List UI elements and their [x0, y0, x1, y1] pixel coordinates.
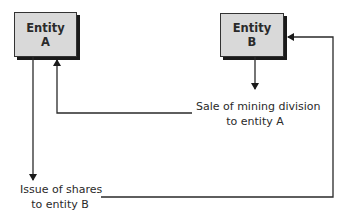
arrow-sale-to-entity-a — [57, 60, 192, 113]
sale-label-line1: Sale of mining division — [196, 99, 314, 114]
issue-of-shares-label: Issue of shares to entity B — [20, 182, 100, 212]
sale-label-line2: to entity A — [196, 114, 314, 129]
sale-of-mining-division-label: Sale of mining division to entity A — [196, 99, 314, 129]
issue-label-line2: to entity B — [20, 197, 100, 212]
issue-label-line1: Issue of shares — [20, 182, 100, 197]
